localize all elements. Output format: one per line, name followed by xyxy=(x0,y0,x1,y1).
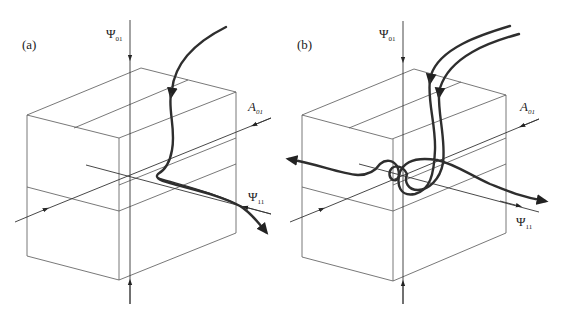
phase-box-a xyxy=(27,68,236,280)
panel-label-b: (b) xyxy=(297,37,312,52)
psi11-axis-a xyxy=(86,165,271,214)
panel-b: (b) xyxy=(289,21,545,304)
psi01-label-b: Ψ01 xyxy=(379,26,396,43)
a01-label-b: A01 xyxy=(519,99,535,116)
psi11-label-b: Ψ11 xyxy=(516,214,533,231)
figure: (a) xyxy=(0,0,562,322)
a01-axis-a xyxy=(15,118,271,222)
a01-label-a: A01 xyxy=(247,99,263,116)
psi01-label-a: Ψ01 xyxy=(106,26,123,43)
panel-label-a: (a) xyxy=(22,37,36,52)
psi11-axis-b xyxy=(359,164,539,212)
a01-axis-b xyxy=(290,119,539,222)
psi11-label-a: Ψ11 xyxy=(248,189,265,206)
panel-a: (a) xyxy=(15,20,271,304)
